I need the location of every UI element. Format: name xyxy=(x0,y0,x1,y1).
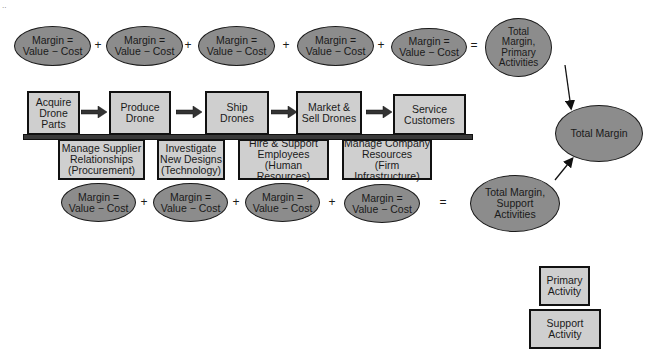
flow-arrow-icon xyxy=(176,106,202,118)
primary-margin-ellipse-1: Margin = Value − Cost xyxy=(14,26,91,66)
support-margin-ellipse-2: Margin = Value − Cost xyxy=(153,183,228,222)
support-activity-firm-infrastructure: Manage Company Resources (Firm Infrastru… xyxy=(342,139,432,180)
support-activity-technology: Investigate New Designs (Technology) xyxy=(157,139,225,180)
support-margin-ellipse-3: Margin = Value − Cost xyxy=(245,183,320,222)
flow-arrow-icon xyxy=(81,106,107,118)
plus-operator: + xyxy=(279,38,293,52)
equals-operator: = xyxy=(436,195,450,209)
primary-margin-ellipse-5: Margin = Value − Cost xyxy=(391,28,467,66)
plus-operator: + xyxy=(181,38,195,52)
primary-activity-acquire-parts: Acquire Drone Parts xyxy=(27,91,80,135)
primary-activity-market-sell: Market & Sell Drones xyxy=(296,91,362,135)
plus-operator: + xyxy=(374,38,388,52)
support-margin-ellipse-4: Margin = Value − Cost xyxy=(344,184,420,223)
legend-primary-activity: Primary Activity xyxy=(539,266,590,306)
total-margin-ellipse: Total Margin xyxy=(555,105,643,162)
primary-margin-ellipse-4: Margin = Value − Cost xyxy=(297,26,374,66)
total-support-ellipse: Total Margin, Support Activities xyxy=(470,175,560,232)
plus-operator: + xyxy=(91,38,105,52)
plus-operator: + xyxy=(229,195,243,209)
plus-operator: + xyxy=(137,195,151,209)
legend-support-activity: Support Activity xyxy=(529,309,601,349)
arrow-support-to-total xyxy=(555,159,572,180)
plus-operator: + xyxy=(325,195,339,209)
primary-margin-ellipse-3: Margin = Value − Cost xyxy=(198,26,275,66)
primary-activity-produce-drone: Produce Drone xyxy=(109,91,171,135)
support-activity-human-resources: Hire & Support Employees (Human Resource… xyxy=(238,139,329,180)
support-activity-procurement: Manage Supplier Relationships (Procureme… xyxy=(58,139,145,180)
support-margin-ellipse-1: Margin = Value − Cost xyxy=(61,183,136,222)
primary-activity-ship-drones: Ship Drones xyxy=(205,91,269,135)
arrow-primary-to-total xyxy=(565,65,571,108)
flow-arrow-icon xyxy=(366,106,392,118)
flow-arrow-icon xyxy=(271,106,297,118)
equals-operator: = xyxy=(467,38,481,52)
total-primary-ellipse: Total Margin, Primary Activities xyxy=(485,18,552,77)
primary-margin-ellipse-2: Margin = Value − Cost xyxy=(106,26,183,66)
primary-activity-service-customers: Service Customers xyxy=(393,94,466,135)
